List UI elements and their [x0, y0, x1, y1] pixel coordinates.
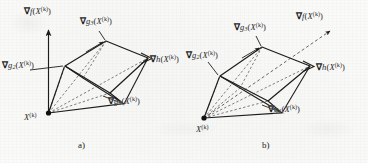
panel-b: ∇f(X(k)) ∇g3(X(k)) ∇g2(X(k)) ∇h(X(k)) ∇g…	[184, 0, 368, 163]
cone-far-facet	[220, 47, 310, 101]
cone-far-facet	[65, 41, 148, 93]
vertex-point	[46, 110, 51, 115]
grad-g2-leader	[208, 62, 218, 75]
grad-g3-arrow	[242, 48, 259, 58]
vertex-label-b: X(k)	[196, 124, 209, 134]
panel-b-drawing	[184, 0, 368, 163]
caption-b: b)	[262, 140, 270, 150]
figure-root: ∇f(X(k)) ∇g3(X(k)) ∇g2(X(k)) ∇h(X(k)) ∇g…	[0, 0, 368, 163]
grad-g3-leader	[256, 36, 261, 46]
vertex-point	[201, 115, 206, 120]
vertex-label-a: X(k)	[24, 112, 37, 122]
grad-g2-label-b: ∇g2(X(k))	[186, 50, 218, 60]
grad-g1-label-a: ∇g1(X(k))	[108, 96, 140, 106]
grad-g2-label-a: ∇g2(X(k))	[2, 60, 34, 70]
grad-g1-label-b: ∇g1(X(k))	[268, 104, 300, 114]
grad-f-label-b: ∇f(X(k))	[296, 11, 323, 21]
grad-h-label-b: ∇h(X(k))	[316, 62, 345, 72]
grad-g3-leader	[99, 31, 105, 40]
grad-g2-leader	[30, 66, 63, 70]
grad-f-label-a: ∇f(X(k))	[24, 6, 51, 16]
caption-a: a)	[78, 140, 85, 150]
grad-g3-label-b: ∇g3(X(k))	[234, 22, 266, 32]
grad-g3-label-a: ∇g3(X(k))	[80, 16, 112, 26]
grad-h-label-a: ∇h(X(k))	[150, 54, 179, 64]
panel-a: ∇f(X(k)) ∇g3(X(k)) ∇g2(X(k)) ∇h(X(k)) ∇g…	[0, 0, 184, 163]
